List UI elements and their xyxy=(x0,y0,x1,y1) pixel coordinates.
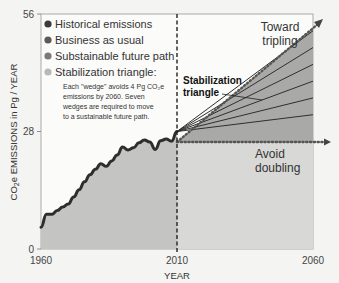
legend-stabilization: Stabilization triangle: xyxy=(55,66,157,78)
legend-historical: Historical emissions xyxy=(55,18,153,30)
annotation-avoid-line1: Avoid xyxy=(255,147,285,161)
legend-swatch-bau xyxy=(44,36,51,43)
y-tick-0: 0 xyxy=(28,244,34,255)
annotation-toward-line2: tripling xyxy=(262,34,297,48)
legend-sustainable: Substainable future path xyxy=(55,50,174,62)
x-tick-2060: 2060 xyxy=(302,255,325,266)
legend-note-line1: Each "wedge" avoids 4 Pg CO₂e xyxy=(63,83,164,91)
annotation-toward-line1: Toward xyxy=(261,20,300,34)
legend-note-line3: wedges are required to move xyxy=(62,103,154,111)
legend-bau: Business as usual xyxy=(55,34,144,46)
legend-swatch-sustainable xyxy=(44,52,51,59)
y-axis-label: CO2e EMISSIONS in Pg / YEAR xyxy=(8,63,20,200)
sustainable-arrow-icon xyxy=(324,139,331,146)
legend-note-line2: emissions by 2060. Seven xyxy=(63,93,145,101)
x-tick-1960: 1960 xyxy=(30,255,53,266)
legend-swatch-historical xyxy=(44,20,51,27)
annotation-stab-line1: Stabilization xyxy=(183,75,242,86)
annotation-stab-line2: triangle xyxy=(183,87,220,98)
emissions-chart: 56 28 0 1960 2010 2060 YEAR CO2e EMISSIO… xyxy=(0,0,339,283)
y-tick-28: 28 xyxy=(23,126,35,137)
y-tick-56: 56 xyxy=(23,9,35,20)
x-axis-label: YEAR xyxy=(164,270,190,281)
legend-note-line4: to a sustainable future path. xyxy=(63,113,149,121)
x-tick-2010: 2010 xyxy=(166,255,189,266)
annotation-avoid-line2: doubling xyxy=(255,161,300,175)
legend-swatch-stabilization xyxy=(44,68,51,75)
avoid-doubling-region xyxy=(177,142,313,249)
